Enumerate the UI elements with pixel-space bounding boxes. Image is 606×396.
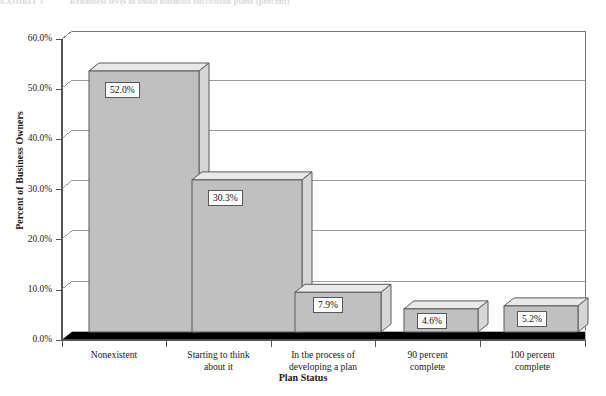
x-tick-line-2: complete	[480, 361, 585, 373]
x-tick-line-1: 90 percent	[375, 349, 480, 361]
bar-in-the-process-of-developing-a-plan[interactable]	[295, 284, 391, 332]
bar-value-90-percent-complete: 4.6%	[417, 313, 447, 329]
y-axis-title: Percent of Business Owners	[14, 111, 25, 230]
x-tick-label-90-percent-complete: 90 percent complete	[375, 349, 480, 372]
y-axis-title-wrap: Percent of Business Owners	[8, 0, 30, 340]
figure-container: EXHIBIT 1Readiness level of small busine…	[0, 0, 606, 396]
x-tick-line-1: Nonexistent	[62, 349, 166, 361]
x-tick-label-100-percent-complete: 100 percent complete	[480, 349, 585, 372]
x-tick-label-in-the-process-of-developing-a-plan: In the process of developing a plan	[271, 349, 375, 372]
x-tick-line-2: developing a plan	[271, 361, 375, 373]
bar-value-in-the-process-of-developing-a-plan: 7.9%	[313, 297, 343, 313]
bar-value-100-percent-complete: 5.2%	[517, 311, 547, 327]
x-tick-line-1: In the process of	[271, 349, 375, 361]
x-tick-line-2: complete	[375, 361, 480, 373]
bar-nonexistent[interactable]	[89, 63, 209, 332]
bar-value-nonexistent: 52.0%	[105, 82, 140, 98]
x-tick-line-1: 100 percent	[480, 349, 585, 361]
bar-value-starting-to-think-about-it: 30.3%	[208, 190, 243, 206]
bar-chart: 60.0% 50.0% 40.0% 30.0% 20.0% 10.0% 0.0%…	[0, 0, 606, 396]
y-tick-marks	[56, 39, 62, 340]
x-tick-line-1: Starting to think	[166, 349, 271, 361]
chart-svg	[0, 0, 606, 396]
chart-floor	[62, 332, 585, 340]
x-axis-title: Plan Status	[0, 372, 606, 383]
x-tick-label-starting-to-think-about-it: Starting to think about it	[166, 349, 271, 372]
x-tick-line-2: about it	[166, 361, 271, 373]
x-tick-label-nonexistent: Nonexistent	[62, 349, 166, 361]
x-axis	[62, 340, 585, 347]
gridline-60	[62, 31, 72, 39]
